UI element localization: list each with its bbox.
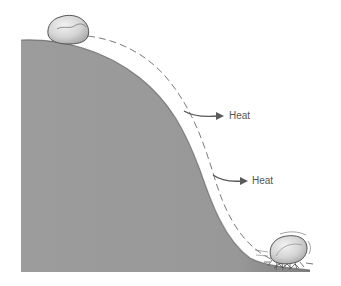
heat-label-upper: Heat bbox=[229, 111, 250, 121]
hill bbox=[21, 40, 310, 272]
rock-top bbox=[48, 15, 89, 44]
hill-diagram bbox=[0, 0, 341, 286]
heat-label-lower: Heat bbox=[252, 176, 273, 186]
heat-arrow-lower bbox=[213, 175, 248, 185]
